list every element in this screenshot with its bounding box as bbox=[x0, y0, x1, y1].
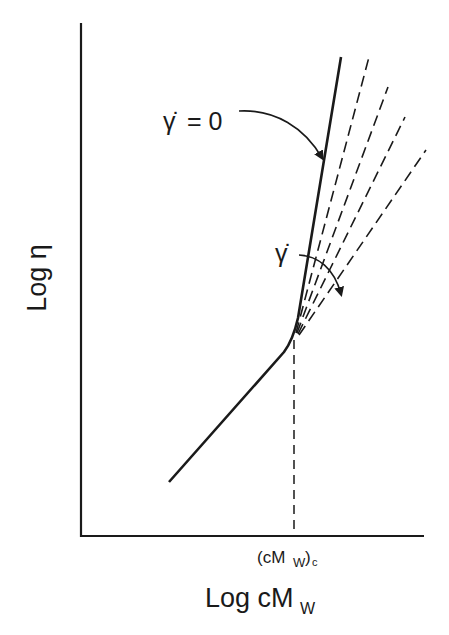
viscosity-diagram: γ̇ = 0 γ̇ (cM W ) c Log cM W Log η bbox=[0, 0, 449, 635]
x-axis-label: Log cM W bbox=[205, 583, 316, 617]
critical-label-close: ) bbox=[305, 548, 311, 567]
dashed-line-1 bbox=[296, 57, 369, 333]
shear-rate-symbol: γ̇ bbox=[275, 239, 290, 267]
critical-label-open: (cM bbox=[257, 548, 285, 567]
critical-tick-label: (cM W ) c bbox=[257, 548, 318, 570]
zero-shear-symbol: γ̇ bbox=[163, 107, 178, 135]
x-axis-label-main: Log cM bbox=[205, 583, 294, 613]
dashed-line-4 bbox=[299, 150, 426, 335]
shear-rate-dashed-lines bbox=[296, 57, 426, 335]
critical-label-sub-c: c bbox=[312, 556, 318, 568]
zero-shear-arrow bbox=[239, 111, 322, 158]
zero-shear-text: = 0 bbox=[187, 107, 222, 135]
x-axis-label-sub: W bbox=[300, 600, 316, 617]
dashed-line-2 bbox=[297, 87, 388, 333]
y-axis-label: Log η bbox=[22, 244, 52, 312]
